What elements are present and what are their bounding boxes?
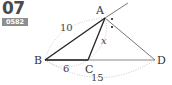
angle-mark-dot — [111, 26, 113, 28]
angle-mark-dot — [111, 18, 113, 20]
segment-ad — [105, 18, 155, 60]
measure-bc: 6 — [63, 63, 69, 74]
point-label-a: A — [95, 4, 105, 17]
measure-ac: x — [101, 35, 107, 46]
measure-bd: 15 — [91, 72, 104, 83]
point-label-d: D — [157, 54, 166, 67]
measure-ab: 10 — [60, 22, 73, 33]
point-label-b: B — [34, 54, 42, 67]
geometry-figure: A B C D 10 6 15 x — [0, 0, 172, 85]
extension-ba — [105, 3, 128, 18]
